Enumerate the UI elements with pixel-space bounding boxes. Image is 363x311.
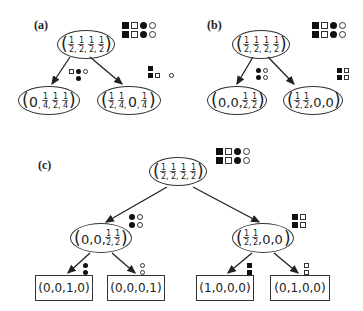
svg-text:2: 2: [252, 101, 257, 110]
filled-circle-icon: [83, 263, 88, 268]
empty-square-icon: [321, 31, 328, 38]
empty-square-icon: [131, 31, 138, 38]
svg-text:1: 1: [119, 92, 124, 101]
svg-text:(: (: [61, 34, 68, 54]
empty-square-icon: [225, 157, 232, 164]
svg-text:,0,0: ,0,0: [309, 95, 334, 110]
svg-text:): ): [69, 90, 76, 110]
svg-text:): ): [284, 228, 291, 248]
panel-a-right-edge-symbols: [148, 66, 174, 78]
panel-b-label: (b): [207, 18, 222, 33]
empty-circle-icon: [169, 73, 174, 78]
svg-text:1: 1: [252, 92, 257, 101]
panel-b-root-symbols: [312, 22, 346, 38]
diagram-canvas: (a) ( 12, 12, 12, 12 ) ( 0 , 14,: [0, 0, 363, 311]
filled-square-icon: [292, 214, 298, 220]
svg-text:,: ,: [48, 101, 51, 110]
empty-circle-icon: [137, 222, 143, 228]
filled-square-icon: [312, 22, 319, 29]
empty-square-icon: [300, 222, 306, 228]
panel-c-leaf-4: (0,1,0,0): [270, 275, 330, 301]
panel-c-ll-edge-symbols: [83, 263, 88, 275]
filled-circle-icon: [76, 76, 81, 81]
fraction-vector: ( 0 , 14, 12, 14 ): [19, 87, 79, 114]
filled-circle-icon: [129, 214, 135, 220]
panel-c-left-edge-symbols: [129, 214, 143, 228]
panel-b-left-edge-symbols: [256, 68, 268, 80]
filled-circle-icon: [234, 157, 241, 164]
filled-square-icon: [216, 157, 223, 164]
empty-circle-icon: [243, 148, 250, 155]
svg-text:): ): [121, 228, 128, 248]
panel-b-right-edge-symbols: [337, 68, 349, 80]
panel-c-rl-edge-symbols: [247, 263, 252, 275]
svg-text:): ): [280, 34, 287, 54]
edge-b-right: [268, 57, 294, 84]
svg-text:1: 1: [43, 92, 48, 101]
fraction-vector: ( 12, 12, 12, 12 ): [58, 31, 114, 58]
svg-text:1: 1: [254, 36, 259, 45]
svg-text:,: ,: [74, 45, 77, 54]
svg-text:2: 2: [115, 238, 120, 247]
empty-circle-icon: [339, 31, 346, 38]
panel-a-right-child-node: ( 12, 14, 0 , 14 ): [97, 86, 161, 115]
filled-square-icon: [312, 31, 319, 38]
svg-text:,: ,: [259, 45, 262, 54]
svg-text:1: 1: [89, 36, 94, 45]
svg-text:1: 1: [181, 163, 186, 172]
svg-text:,: ,: [84, 45, 87, 54]
fraction-vector: ( 0,0, 12, 12 ): [208, 87, 266, 114]
svg-text:,: ,: [269, 45, 272, 54]
empty-square-icon: [344, 68, 349, 73]
leaf-value: (1,0,0,0): [199, 281, 250, 295]
svg-text:1: 1: [264, 36, 269, 45]
empty-circle-icon: [149, 31, 156, 38]
empty-circle-icon: [263, 75, 268, 80]
svg-text:): ): [334, 90, 341, 110]
svg-text:4: 4: [63, 101, 68, 110]
empty-circle-icon: [149, 22, 156, 29]
panel-c-leaf-2: (0,0,0,1): [107, 275, 165, 301]
svg-text:): ): [105, 34, 112, 54]
leaf-value: (0,0,1,0): [38, 281, 89, 295]
empty-circle-icon: [243, 157, 250, 164]
empty-square-icon: [155, 73, 160, 78]
panel-c-label: (c): [38, 158, 51, 173]
empty-square-icon: [321, 22, 328, 29]
svg-text:(: (: [236, 34, 243, 54]
panel-b-root-node: ( 12, 12, 12, 12 ): [232, 30, 290, 59]
edge-b-left: [237, 57, 253, 84]
edge-a-right: [90, 57, 122, 84]
svg-text:,: ,: [249, 238, 252, 247]
svg-text:,0,0: ,0,0: [258, 232, 283, 247]
panel-c-right-edge-symbols: [292, 214, 306, 228]
fraction-vector: ( 12, 12 ,0,0 ): [284, 87, 342, 114]
filled-square-icon: [337, 75, 342, 80]
svg-text:1: 1: [142, 92, 147, 101]
svg-text:1: 1: [243, 92, 248, 101]
edge-c-right: [193, 187, 259, 222]
svg-text:(: (: [101, 90, 108, 110]
edge-c-lr: [112, 253, 135, 273]
panel-a-root-symbols: [122, 22, 156, 38]
filled-square-icon: [122, 22, 129, 29]
empty-square-icon: [344, 75, 349, 80]
svg-text:1: 1: [244, 36, 249, 45]
filled-square-icon: [122, 31, 129, 38]
svg-text:2: 2: [99, 45, 104, 54]
filled-circle-icon: [256, 75, 261, 80]
leaf-value: (0,0,0,1): [110, 281, 161, 295]
svg-text:2: 2: [274, 45, 279, 54]
empty-circle-icon: [83, 69, 88, 74]
panel-a-label: (a): [34, 18, 48, 33]
svg-text:1: 1: [106, 229, 111, 238]
svg-text:): ): [197, 161, 204, 181]
svg-text:,: ,: [111, 238, 114, 247]
panel-c-rr-edge-symbols: [304, 263, 309, 275]
filled-circle-icon: [140, 31, 147, 38]
filled-circle-icon: [234, 148, 241, 155]
svg-text:(: (: [211, 90, 218, 110]
svg-text:1: 1: [99, 36, 104, 45]
filled-square-icon: [148, 66, 153, 71]
panel-c-leaf-1: (0,0,1,0): [35, 275, 93, 301]
